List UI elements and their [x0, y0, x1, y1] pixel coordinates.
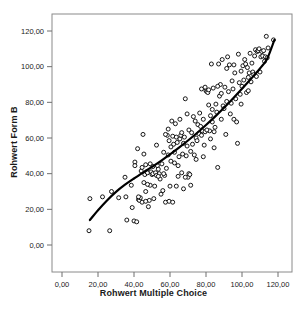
data-point [144, 199, 148, 203]
data-point [175, 140, 179, 144]
data-point [170, 119, 174, 123]
data-point [264, 34, 268, 38]
data-point [212, 130, 216, 134]
data-point [198, 111, 202, 115]
data-point [182, 187, 186, 191]
data-point [246, 89, 250, 93]
y-axis-ticks [47, 31, 52, 245]
data-point [173, 122, 177, 126]
data-point [129, 183, 133, 187]
data-point [228, 112, 232, 116]
data-point [185, 112, 189, 116]
data-point [214, 102, 218, 106]
data-point [183, 175, 187, 179]
data-point [144, 163, 148, 167]
data-point [212, 146, 216, 150]
y-tick-label: 0,00 [29, 241, 44, 250]
data-point [180, 131, 184, 135]
data-point [87, 229, 91, 233]
data-point [125, 218, 129, 222]
data-point [227, 90, 231, 94]
data-point [219, 117, 223, 121]
data-point [168, 184, 172, 188]
data-point [223, 85, 227, 89]
data-point [187, 128, 191, 132]
data-point [171, 200, 175, 204]
data-point [233, 71, 237, 75]
data-point [225, 66, 229, 70]
data-point [161, 189, 165, 193]
x-axis-ticks [62, 272, 278, 277]
data-point [173, 161, 177, 165]
y-tick-label: 20,00 [25, 205, 44, 214]
data-point [136, 147, 140, 151]
data-point [230, 79, 234, 83]
data-point [155, 143, 159, 147]
data-point [135, 220, 139, 224]
data-point [191, 115, 195, 119]
data-point [146, 182, 150, 186]
data-point [184, 154, 188, 158]
data-point [253, 54, 257, 58]
data-point [243, 58, 247, 62]
data-point [227, 63, 231, 67]
data-point [232, 63, 236, 67]
data-point [203, 85, 207, 89]
scatter-plot-figure: 0,0020,0040,0060,0080,00100,00120,00 0,0… [0, 0, 307, 310]
data-point [202, 143, 206, 147]
data-point [235, 120, 239, 124]
data-point [153, 184, 157, 188]
data-point [123, 175, 127, 179]
data-point [152, 197, 156, 201]
data-point [191, 142, 195, 146]
y-tick-label: 100,00 [21, 62, 44, 71]
data-point [216, 165, 220, 169]
data-point [133, 164, 137, 168]
data-point [124, 195, 128, 199]
data-point [226, 55, 230, 59]
data-point [200, 133, 204, 137]
data-point [266, 46, 270, 50]
data-point [88, 197, 92, 201]
data-point [140, 165, 144, 169]
data-point [164, 132, 168, 136]
data-point [262, 49, 266, 53]
data-point [117, 196, 121, 200]
data-point [156, 167, 160, 171]
data-point [219, 91, 223, 95]
data-point [167, 139, 171, 143]
data-point [178, 117, 182, 121]
y-axis-tick-labels: 0,0020,0040,0060,0080,00100,00120,00 [21, 27, 44, 250]
data-point [144, 190, 148, 194]
data-point [237, 81, 241, 85]
data-point [162, 150, 166, 154]
data-point [141, 132, 145, 136]
data-point [108, 229, 112, 233]
data-point [137, 195, 141, 199]
data-point [236, 52, 240, 56]
data-point [242, 78, 246, 82]
data-point [176, 174, 180, 178]
x-axis-title: Rohwert Multiple Choice [0, 288, 307, 298]
data-point [239, 69, 243, 73]
y-tick-label: 80,00 [25, 98, 44, 107]
data-point [207, 88, 211, 92]
data-point [164, 166, 168, 170]
data-point [192, 153, 196, 157]
data-point [239, 102, 243, 106]
data-point [189, 183, 193, 187]
data-point [162, 172, 166, 176]
data-point [195, 139, 199, 143]
data-point [250, 61, 254, 65]
data-point [183, 97, 187, 101]
data-point [224, 132, 228, 136]
data-point [189, 149, 193, 153]
data-point [207, 103, 211, 107]
y-tick-label: 40,00 [25, 169, 44, 178]
plot-canvas: 0,0020,0040,0060,0080,00100,00120,00 0,0… [0, 0, 307, 310]
data-point [209, 137, 213, 141]
y-tick-label: 60,00 [25, 134, 44, 143]
data-point [248, 51, 252, 55]
data-point [180, 171, 184, 175]
data-point [146, 205, 150, 209]
